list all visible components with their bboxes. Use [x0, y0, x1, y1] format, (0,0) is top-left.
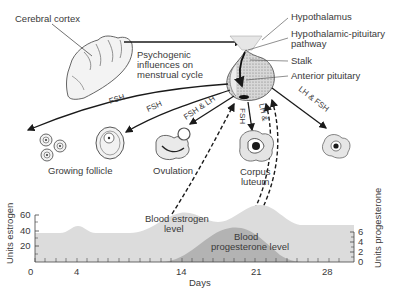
estrogen-feedback-arrow	[172, 104, 234, 214]
x-axis-label: Days	[189, 277, 211, 288]
x-tick-14: 14	[176, 266, 187, 277]
psychogenic-label-3: menstrual cycle	[137, 69, 203, 80]
x-tick-28: 28	[322, 266, 333, 277]
x-tick-21: 21	[251, 266, 262, 277]
x-tick-0: 0	[28, 266, 33, 277]
hypothalamus-leader	[262, 18, 288, 40]
corpus-luteum-label-2: luteum	[241, 176, 270, 187]
cerebral-cortex-leader	[52, 24, 92, 56]
ovulation-label: Ovulation	[153, 165, 193, 176]
hypothalamus-label: Hypothalamus	[291, 11, 352, 22]
growing-follicle-label: Growing follicle	[48, 165, 112, 176]
left-tick-60: 60	[20, 209, 31, 220]
lh-fsh-vertical-label-2: FSH	[238, 108, 247, 124]
pituitary-illustration	[227, 36, 275, 101]
cerebral-cortex-illustration	[67, 36, 133, 99]
fsh-label-2: FSH	[145, 99, 163, 114]
anterior-pituitary-label: Anterior pituitary	[291, 70, 360, 81]
x-tick-4: 4	[74, 266, 79, 277]
corpus-luteum-illustration	[240, 131, 274, 162]
fsh-arrow-2	[126, 90, 230, 132]
progesterone-area-label-2: progesterone level	[211, 241, 289, 252]
right-tick-0: 0	[358, 256, 363, 267]
left-tick-20: 20	[20, 240, 31, 251]
hormone-chart: 60 40 20 Units estrogen 6 4 2 0 Units pr…	[4, 188, 383, 288]
fsh-label-1: FSH	[108, 92, 126, 106]
lh-fsh-down-arrow	[248, 102, 252, 130]
cerebral-cortex-label: Cerebral cortex	[15, 13, 80, 24]
ovulation-illustration	[156, 128, 190, 160]
estrogen-area-label-2: level	[164, 223, 184, 234]
stalk-label: Stalk	[291, 55, 312, 66]
growing-follicle-small-illustration	[40, 134, 66, 161]
left-axis-label: Units estrogen	[4, 203, 15, 264]
left-tick-40: 40	[20, 225, 31, 236]
pathway-label-2: pathway	[291, 38, 327, 49]
right-axis-label: Units progesterone	[372, 188, 383, 268]
growing-follicle-large-illustration	[96, 127, 124, 159]
regressing-corpus-luteum-illustration	[322, 135, 350, 159]
